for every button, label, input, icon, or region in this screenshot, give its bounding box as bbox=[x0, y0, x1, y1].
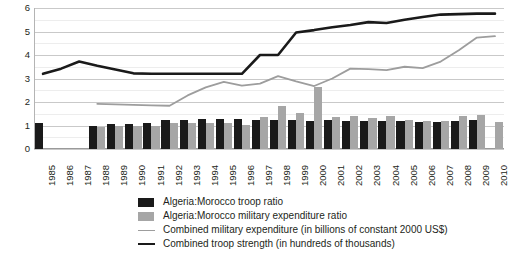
x-axis-tick-label: 1997 bbox=[264, 165, 274, 186]
x-axis-tick-label: 1988 bbox=[101, 165, 111, 186]
x-axis-tick-label: 2001 bbox=[336, 165, 346, 186]
x-axis-tick-label: 1985 bbox=[47, 165, 57, 186]
plot-area bbox=[34, 8, 504, 149]
line-combined-troop-strength bbox=[43, 14, 495, 74]
y-axis-tick-label: 4 bbox=[4, 50, 30, 60]
chart-container: 0123456 19851986198719881989199019911992… bbox=[0, 0, 511, 262]
legend-item-combined-troops: Combined troop strength (in hundreds of … bbox=[136, 237, 506, 251]
x-axis-tick-label: 2006 bbox=[427, 165, 437, 186]
x-axis-tick-label: 2009 bbox=[481, 165, 491, 186]
x-axis-tick-label: 1993 bbox=[192, 165, 202, 186]
x-axis-tick-label: 1994 bbox=[210, 165, 220, 186]
y-axis-tick-label: 3 bbox=[4, 74, 30, 84]
x-axis-tick-label: 2003 bbox=[372, 165, 382, 186]
x-axis-tick-label: 2008 bbox=[463, 165, 473, 186]
x-axis-tick-label: 2010 bbox=[499, 165, 509, 186]
y-axis-tick-label: 1 bbox=[4, 121, 30, 131]
legend-swatch-line-icon bbox=[136, 243, 156, 245]
legend-swatch-line-icon bbox=[136, 230, 156, 231]
x-axis-tick-label: 1995 bbox=[228, 165, 238, 186]
x-axis-tick-label: 1998 bbox=[282, 165, 292, 186]
x-axis-tick-label: 2000 bbox=[318, 165, 328, 186]
x-axis-tick-label: 2007 bbox=[445, 165, 455, 186]
y-axis-tick-label: 6 bbox=[4, 3, 30, 13]
x-axis-tick-label: 2005 bbox=[409, 165, 419, 186]
legend-item-expenditure-ratio: Algeria:Morocco military expenditure rat… bbox=[136, 209, 506, 223]
x-axis-tick-label: 2004 bbox=[391, 165, 401, 186]
x-axis-tick-label: 1992 bbox=[174, 165, 184, 186]
legend-swatch-box-icon bbox=[136, 198, 156, 207]
legend-label: Algeria:Morocco military expenditure rat… bbox=[163, 210, 347, 222]
y-axis-tick-label: 2 bbox=[4, 97, 30, 107]
legend-item-combined-expenditure: Combined military expenditure (in billio… bbox=[136, 223, 506, 237]
line-combined-military-expenditure bbox=[97, 36, 495, 106]
y-axis-labels: 0123456 bbox=[0, 8, 30, 149]
x-axis-tick-label: 1986 bbox=[65, 165, 75, 186]
legend-label: Combined troop strength (in hundreds of … bbox=[163, 238, 395, 250]
legend-swatch-box-icon bbox=[136, 212, 156, 221]
chart-legend: Algeria:Morocco troop ratio Algeria:Moro… bbox=[136, 195, 506, 251]
x-axis-tick-label: 1996 bbox=[246, 165, 256, 186]
legend-item-troop-ratio: Algeria:Morocco troop ratio bbox=[136, 195, 506, 209]
legend-label: Combined military expenditure (in billio… bbox=[163, 224, 448, 236]
x-axis-labels: 1985198619871988198919901991199219931994… bbox=[34, 150, 504, 190]
x-axis-tick-label: 2002 bbox=[354, 165, 364, 186]
x-axis-tick-label: 1990 bbox=[137, 165, 147, 186]
x-axis-tick-label: 1987 bbox=[83, 165, 93, 186]
y-axis-tick-label: 0 bbox=[4, 144, 30, 154]
x-axis-tick-label: 1989 bbox=[119, 165, 129, 186]
x-axis-tick-label: 1991 bbox=[156, 165, 166, 186]
y-axis-tick-label: 5 bbox=[4, 27, 30, 37]
x-axis-tick-label: 1999 bbox=[300, 165, 310, 186]
line-series-layer bbox=[34, 8, 504, 149]
legend-label: Algeria:Morocco troop ratio bbox=[163, 196, 283, 208]
